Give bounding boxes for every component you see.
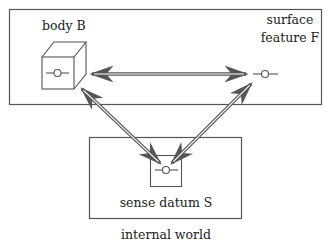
sense-datum-label: sense datum S	[120, 195, 213, 210]
surface-feature-icon	[253, 71, 278, 78]
feature-label-line1: surface	[267, 12, 314, 27]
body-cube-icon	[42, 42, 86, 89]
body-label: body B	[42, 18, 86, 33]
diagram-canvas: body B surface feature F sense datum S	[0, 0, 328, 247]
arrow-datum-body	[82, 89, 160, 163]
internal-world-label: internal world	[121, 227, 211, 242]
feature-label-line2: feature F	[261, 30, 320, 45]
arrow-datum-feature	[172, 84, 251, 163]
